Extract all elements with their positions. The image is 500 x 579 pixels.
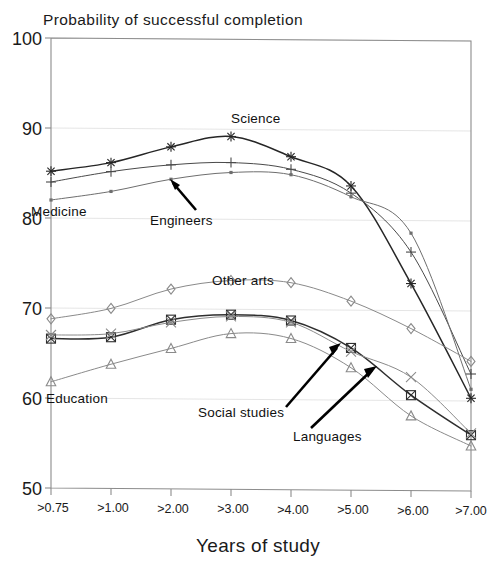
marker-plus (166, 160, 176, 170)
y-tick-label-50: 50 (22, 479, 42, 499)
x-tick-label-0: >0.75 (37, 501, 69, 515)
marker-asterisk (406, 279, 416, 289)
x-tick-label-2: >2.00 (157, 502, 189, 516)
series-line (51, 136, 471, 398)
marker-plus (286, 164, 296, 174)
series-label-science: Science (231, 111, 280, 126)
series-label-engineers: Engineers (150, 213, 213, 228)
y-tick-label-90: 90 (22, 119, 42, 139)
series-layer (46, 131, 476, 450)
marker-asterisk (226, 131, 236, 141)
y-tick-label-60: 60 (22, 389, 42, 409)
series-label-medicine: Medicine (31, 204, 87, 219)
series-label-languages: Languages (293, 429, 362, 444)
series-education (46, 329, 476, 450)
line-chart: Probability of successful completion 100… (0, 0, 500, 579)
chart-container: Probability of successful completion 100… (0, 0, 500, 579)
y-tick-label-70: 70 (22, 299, 42, 319)
series-label-social-studies: Social studies (198, 405, 284, 420)
marker-boxed-x (407, 391, 416, 400)
x-tick-label-4: >4.00 (277, 503, 309, 517)
marker-dot (49, 198, 52, 201)
marker-dot (289, 173, 292, 176)
y-axis-ticks (45, 38, 51, 488)
marker-cross (406, 372, 416, 382)
x-tick-label-7: >7.00 (455, 504, 487, 518)
x-tick-label-1: >1.00 (97, 501, 129, 515)
y-tick-label-100: 100 (12, 29, 42, 49)
x-tick-label-3: >3.00 (217, 502, 249, 516)
marker-dot (229, 171, 232, 174)
plot-frame (51, 38, 471, 491)
marker-plus (226, 158, 236, 168)
x-axis-title: Years of study (196, 535, 320, 556)
marker-plus (106, 167, 116, 177)
series-label-education: Education (46, 391, 108, 406)
marker-dot (469, 388, 472, 391)
series-label-other-arts: Other arts (212, 273, 274, 288)
marker-asterisk (166, 142, 176, 152)
marker-asterisk (106, 158, 116, 168)
marker-dot (349, 195, 352, 198)
marker-asterisk (286, 152, 296, 162)
series-line (51, 280, 471, 362)
marker-plus (406, 247, 416, 257)
marker-asterisk (46, 166, 56, 176)
chart-title: Probability of successful completion (43, 11, 303, 28)
marker-dot (109, 190, 112, 193)
x-tick-label-5: >5.00 (337, 503, 369, 517)
languages-arrow-line (311, 370, 372, 428)
x-tick-label-6: >6.00 (397, 504, 429, 518)
series-line (51, 333, 471, 446)
marker-dot (409, 232, 412, 235)
marker-asterisk (466, 393, 476, 403)
marker-plus (466, 369, 476, 379)
gridlines (51, 38, 471, 401)
marker-cross (286, 317, 296, 327)
marker-plus (46, 177, 56, 187)
social-studies-arrow-line (286, 348, 337, 407)
series-other-arts (47, 275, 475, 366)
